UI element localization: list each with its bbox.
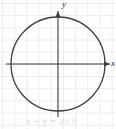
math-figure-circle: y x x + y = 25 0 — [0, 0, 116, 129]
x-axis-label: x — [111, 59, 115, 68]
caption-clip-region: x + y = 25 0 — [0, 119, 116, 129]
plot-canvas — [0, 0, 116, 129]
y-axis-label: y — [62, 0, 66, 9]
equation-caption: x + y = 25 0 — [26, 119, 77, 126]
